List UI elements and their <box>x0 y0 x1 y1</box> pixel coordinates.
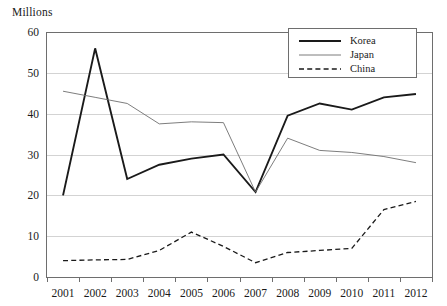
x-axis-tick-label: 2012 <box>404 287 427 299</box>
series-line-china <box>63 201 416 262</box>
line-chart: Millions 0102030405060 20012002200320042… <box>0 0 447 306</box>
x-axis-tick-label: 2004 <box>148 287 171 299</box>
y-axis-tick-label: 10 <box>28 230 40 242</box>
y-axis-tick-label: 50 <box>28 67 40 79</box>
x-axis-tick-label: 2003 <box>116 287 139 299</box>
x-axis-tick-label: 2009 <box>308 287 331 299</box>
legend-label-japan: Japan <box>350 49 375 60</box>
y-axis-tick-label: 40 <box>28 108 40 120</box>
legend: KoreaJapanChina <box>289 29 417 78</box>
x-axis-tick-label: 2010 <box>340 287 363 299</box>
x-axis-tick-label: 2001 <box>52 287 75 299</box>
y-axis-labels-group: 0102030405060 <box>28 26 40 283</box>
legend-label-china: China <box>350 63 375 74</box>
x-axis-labels-group: 2001200220032004200520062007200820092010… <box>52 287 428 299</box>
y-axis-tick-label: 60 <box>28 26 40 38</box>
y-axis-tick-label: 20 <box>28 189 40 201</box>
series-line-japan <box>63 91 416 192</box>
x-axis-tick-label: 2005 <box>180 287 203 299</box>
x-axis-tick-label: 2011 <box>373 287 396 299</box>
chart-canvas: 0102030405060 20012002200320042005200620… <box>0 0 447 306</box>
legend-label-korea: Korea <box>350 35 376 46</box>
y-axis-tick-label: 0 <box>33 271 39 283</box>
y-axis-tick-label: 30 <box>28 149 40 161</box>
x-axis-tick-label: 2006 <box>212 287 235 299</box>
x-axis-tick-label: 2002 <box>84 287 107 299</box>
x-axis-tick-label: 2007 <box>244 287 267 299</box>
x-axis-tick-label: 2008 <box>276 287 299 299</box>
